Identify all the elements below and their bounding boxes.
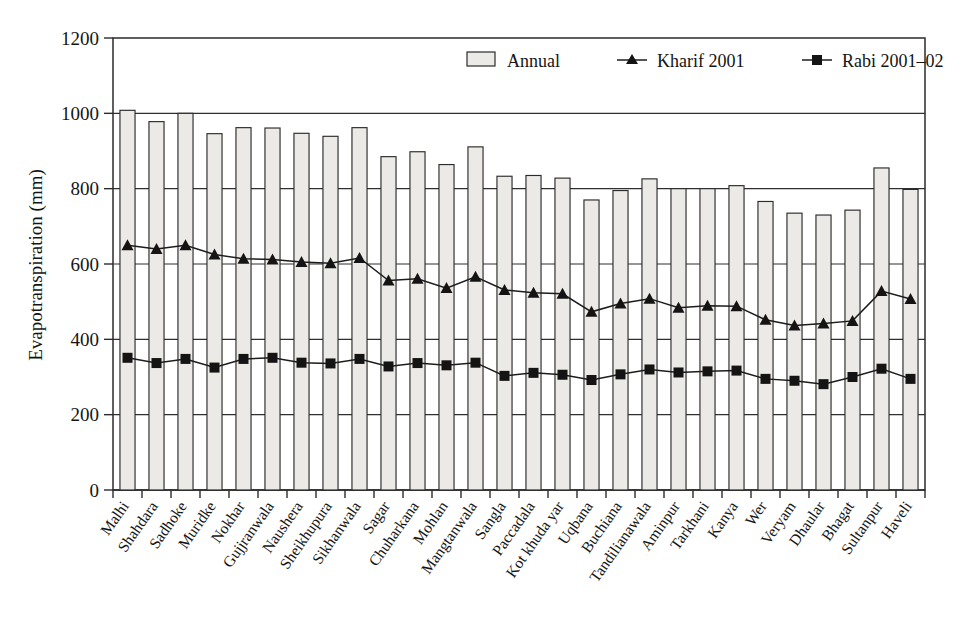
marker-rabi-2001-02-25 — [848, 372, 858, 382]
marker-rabi-2001-02-7 — [326, 358, 336, 368]
bar-sagar — [381, 157, 396, 490]
bar-naushera — [294, 133, 309, 490]
legend-item-kharif-2001: Kharif 2001 — [617, 51, 744, 71]
marker-rabi-2001-02-6 — [297, 358, 307, 368]
legend-label-annual: Annual — [507, 51, 560, 71]
legend-marker-kharif-2001 — [626, 54, 638, 64]
marker-rabi-2001-02-13 — [500, 371, 510, 381]
marker-rabi-2001-02-22 — [761, 374, 771, 384]
marker-rabi-2001-02-14 — [529, 368, 539, 378]
marker-rabi-2001-02-3 — [210, 363, 220, 373]
chart-figure: Evapotranspiration (mm) 0200400600800100… — [0, 0, 970, 637]
marker-rabi-2001-02-18 — [645, 364, 655, 374]
marker-rabi-2001-02-4 — [239, 354, 249, 364]
marker-rabi-2001-02-27 — [906, 374, 916, 384]
bar-tarkhani — [700, 189, 715, 490]
legend-marker-rabi-2001-02 — [812, 55, 822, 65]
bar-shahdara — [149, 122, 164, 490]
bar-sikhanwala — [352, 128, 367, 490]
bar-paccadala — [526, 175, 541, 490]
y-tick-label-200: 200 — [71, 404, 100, 425]
legend-item-annual: Annual — [467, 51, 560, 71]
marker-rabi-2001-02-20 — [703, 366, 713, 376]
marker-rabi-2001-02-11 — [442, 360, 452, 370]
marker-rabi-2001-02-17 — [616, 369, 626, 379]
bar-mohlan — [439, 165, 454, 490]
x-axis-labels: MalhiShahdaraSadhokeMuridkeNokharGujjran… — [97, 497, 916, 585]
bar-malhi — [120, 110, 135, 490]
marker-rabi-2001-02-24 — [819, 379, 829, 389]
bar-dhaular — [816, 215, 831, 490]
y-axis-title: Evapotranspiration (mm) — [25, 169, 47, 361]
y-axis-title-text: Evapotranspiration (mm) — [25, 169, 47, 361]
bar-sultanpur — [874, 168, 889, 490]
y-tick-label-600: 600 — [71, 254, 100, 275]
marker-rabi-2001-02-16 — [587, 375, 597, 385]
bar-nokhar — [236, 128, 251, 490]
y-tick-label-1000: 1000 — [61, 103, 99, 124]
bar-kot-khuda-yar — [555, 178, 570, 490]
y-tick-label-1200: 1200 — [61, 28, 99, 49]
x-label-haveli: Haveli — [877, 497, 915, 541]
marker-rabi-2001-02-10 — [413, 358, 423, 368]
bar-haveli — [903, 189, 918, 490]
marker-rabi-2001-02-9 — [384, 361, 394, 371]
y-axis-ticks: 020040060080010001200 — [61, 28, 113, 501]
bar-muridke — [207, 134, 222, 490]
marker-rabi-2001-02-8 — [355, 354, 365, 364]
evapotranspiration-bar-chart: Evapotranspiration (mm) 0200400600800100… — [0, 0, 970, 637]
marker-rabi-2001-02-26 — [877, 364, 887, 374]
legend-label-kharif-2001: Kharif 2001 — [657, 51, 744, 71]
legend-swatch-annual — [467, 52, 495, 66]
bar-aminpur — [671, 189, 686, 490]
legend-item-rabi-2001-02: Rabi 2001–02 — [802, 51, 944, 71]
x-label-kanya: Kanya — [704, 498, 741, 541]
bar-buchiana — [613, 191, 628, 490]
marker-rabi-2001-02-12 — [471, 358, 481, 368]
bar-sheikhupura — [323, 136, 338, 490]
marker-rabi-2001-02-1 — [152, 358, 162, 368]
marker-rabi-2001-02-15 — [558, 370, 568, 380]
bar-series-annual — [120, 110, 918, 490]
bar-tandilianawala — [642, 179, 657, 490]
y-tick-label-0: 0 — [90, 480, 100, 501]
marker-rabi-2001-02-19 — [674, 367, 684, 377]
bar-mangtanwala — [468, 147, 483, 490]
bar-sadhoke — [178, 113, 193, 490]
bar-gujjranwala — [265, 128, 280, 490]
marker-rabi-2001-02-23 — [790, 376, 800, 386]
legend-label-rabi-2001-02: Rabi 2001–02 — [842, 51, 944, 71]
bar-wer — [758, 201, 773, 490]
bar-veryam — [787, 213, 802, 490]
marker-rabi-2001-02-0 — [123, 353, 133, 363]
gridlines — [113, 113, 925, 414]
bar-sangla — [497, 176, 512, 490]
bar-uqbana — [584, 200, 599, 490]
x-axis-ticks — [113, 490, 925, 498]
marker-rabi-2001-02-5 — [268, 353, 278, 363]
y-tick-label-400: 400 — [71, 329, 100, 350]
y-tick-label-800: 800 — [71, 178, 100, 199]
marker-rabi-2001-02-2 — [181, 354, 191, 364]
bar-kanya — [729, 186, 744, 490]
chart-legend: AnnualKharif 2001Rabi 2001–02 — [467, 51, 944, 71]
bar-bhagat — [845, 210, 860, 490]
bar-chuharkana — [410, 152, 425, 490]
marker-rabi-2001-02-21 — [732, 366, 742, 376]
